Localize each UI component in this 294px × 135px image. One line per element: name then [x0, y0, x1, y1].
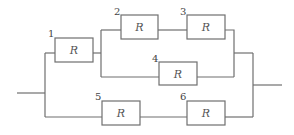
- resistor-label: R: [116, 107, 125, 120]
- resistor-label: R: [134, 21, 143, 34]
- resistor-label: R: [201, 21, 210, 34]
- resistor-number: 6: [180, 91, 186, 102]
- resistor-6: R 6: [180, 91, 225, 125]
- resistor-label: R: [201, 107, 210, 120]
- resistor-3: R 3: [180, 6, 225, 39]
- resistor-label: R: [173, 68, 182, 81]
- resistor-number: 1: [48, 28, 54, 39]
- circuit-diagram: R 1 R 2 R 3 R 4 R 5 R 6: [0, 0, 294, 135]
- resistor-label: R: [69, 44, 78, 57]
- resistor-5: R 5: [95, 91, 140, 125]
- resistor-number: 2: [114, 6, 120, 17]
- resistor-4: R 4: [152, 53, 197, 85]
- resistor-1: R 1: [48, 28, 93, 62]
- resistor-2: R 2: [114, 6, 158, 39]
- resistor-number: 3: [180, 6, 186, 17]
- wire-r3-out: [225, 30, 234, 77]
- resistor-number: 4: [152, 53, 158, 64]
- resistor-number: 5: [95, 91, 101, 102]
